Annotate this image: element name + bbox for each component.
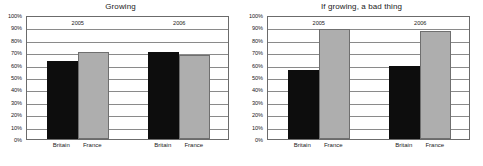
bar-2005-france [78,52,109,139]
y-tick-label: 20% [11,112,22,118]
y-tick-label: 90% [11,25,22,31]
chart-panel-bad-thing: If growing, a bad thing 0%10%20%30%40%50… [241,0,482,166]
group-label-2005: 2005 [27,20,129,26]
y-tick-label: 30% [11,100,22,106]
bar-2006-britain [389,66,420,139]
chart-panel-growing: Growing 0%10%20%30%40%50%60%70%80%90%100… [0,0,241,166]
chart-title-left: Growing [0,2,241,11]
y-tick-label: 60% [11,63,22,69]
x-tick-label: France [71,142,114,148]
y-tick-label: 10% [11,125,22,131]
bar-2005-britain [47,61,78,139]
y-tick-label: 100% [8,13,22,19]
y-tick-label: 70% [11,50,22,56]
y-tick-label: 50% [11,75,22,81]
y-tick-label: 100% [249,13,263,19]
bar-2006-france [420,31,451,139]
x-tick-label: France [312,142,355,148]
y-tick-label: 10% [252,125,263,131]
group-label-2005: 2005 [268,20,370,26]
y-tick-label: 40% [252,87,263,93]
x-tick-label: France [413,142,456,148]
bar-2005-france [319,29,350,139]
y-tick-label: 40% [11,87,22,93]
x-axis-labels-right: BritainFranceBritainFrance [267,142,470,156]
chart-figure: Growing 0%10%20%30%40%50%60%70%80%90%100… [0,0,483,166]
bars-right [268,17,469,139]
y-tick-label: 80% [252,38,263,44]
y-tick-label: 70% [252,50,263,56]
bar-2006-britain [148,52,179,139]
chart-title-right: If growing, a bad thing [241,2,482,11]
x-tick-label: France [172,142,215,148]
bar-2006-france [179,55,210,139]
y-tick-label: 0% [255,137,263,143]
y-tick-label: 80% [11,38,22,44]
y-tick-label: 30% [252,100,263,106]
y-tick-label: 0% [14,137,22,143]
plot-area-left: 20052006 [26,16,229,140]
y-tick-label: 60% [252,63,263,69]
bars-left [27,17,228,139]
y-tick-label: 90% [252,25,263,31]
group-label-2006: 2006 [129,20,231,26]
y-tick-label: 20% [252,112,263,118]
plot-area-right: 20052006 [267,16,470,140]
x-axis-labels-left: BritainFranceBritainFrance [26,142,229,156]
bar-2005-britain [288,70,319,139]
group-label-2006: 2006 [370,20,472,26]
y-tick-label: 50% [252,75,263,81]
y-axis-labels-left: 0%10%20%30%40%50%60%70%80%90%100% [0,16,24,140]
y-axis-labels-right: 0%10%20%30%40%50%60%70%80%90%100% [241,16,265,140]
